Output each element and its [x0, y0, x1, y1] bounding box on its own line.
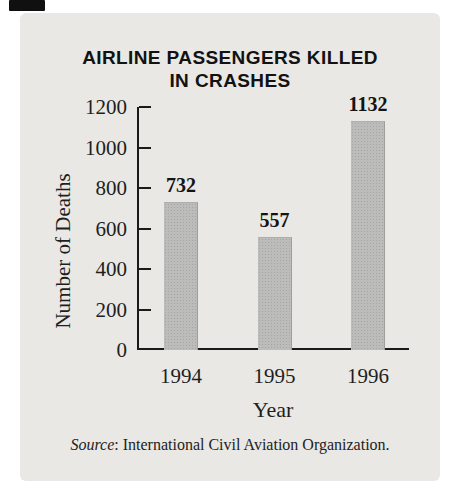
bar-1996	[351, 121, 385, 350]
y-tick-label: 1000	[20, 135, 127, 161]
bar-value-label: 1132	[323, 92, 413, 116]
chart-title-line1: AIRLINE PASSENGERS KILLED	[20, 46, 440, 69]
chart-title-line2: IN CRASHES	[20, 69, 440, 92]
source-text: : International Civil Aviation Organizat…	[114, 436, 389, 453]
y-tick-mark	[139, 147, 151, 149]
chart-title: AIRLINE PASSENGERS KILLED IN CRASHES	[20, 46, 440, 92]
figure-panel: AIRLINE PASSENGERS KILLED IN CRASHES Num…	[20, 13, 440, 481]
y-tick-mark	[139, 228, 151, 230]
x-axis-label: Year	[137, 397, 409, 423]
y-tick-label: 400	[20, 256, 127, 282]
y-tick-label: 0	[20, 337, 127, 363]
y-tick-label: 1200	[20, 94, 127, 120]
x-tick-label: 1994	[136, 364, 226, 388]
x-tick-label: 1995	[230, 364, 320, 388]
x-tick-label: 1996	[323, 364, 413, 388]
y-tick-mark	[139, 268, 151, 270]
bar-1995	[258, 237, 292, 350]
y-tick-mark	[139, 106, 151, 108]
scan-artifact-mark	[9, 0, 45, 11]
y-tick-mark	[139, 309, 151, 311]
y-tick-label: 200	[20, 297, 127, 323]
source-line: Source: International Civil Aviation Org…	[20, 436, 440, 454]
bar-value-label: 557	[230, 208, 320, 232]
source-prefix: Source	[70, 436, 114, 453]
y-tick-label: 800	[20, 175, 127, 201]
bar-value-label: 732	[136, 173, 226, 197]
y-tick-label: 600	[20, 216, 127, 242]
bar-1994	[164, 202, 198, 350]
